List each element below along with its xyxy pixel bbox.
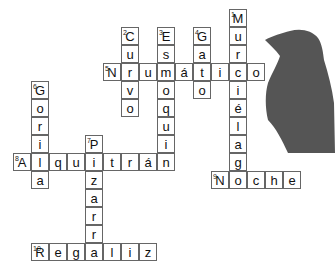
- crossword-cell[interactable]: a: [193, 45, 211, 63]
- cell-letter: s: [163, 47, 170, 62]
- crossword-cell[interactable]: 8A: [13, 153, 31, 171]
- crossword-cell[interactable]: o: [31, 99, 49, 117]
- cell-letter: r: [128, 65, 132, 80]
- cell-letter: u: [126, 47, 133, 62]
- crossword-cell[interactable]: á: [139, 153, 157, 171]
- cell-letter: o: [126, 101, 133, 116]
- crossword-cell[interactable]: u: [121, 45, 139, 63]
- cell-letter: i: [219, 65, 222, 80]
- crossword-cell[interactable]: o: [193, 81, 211, 99]
- cell-letter: z: [145, 245, 152, 260]
- crossword-cell[interactable]: u: [67, 153, 85, 171]
- crossword-cell[interactable]: 3E: [157, 27, 175, 45]
- cell-letter: a: [90, 245, 97, 260]
- crossword-cell[interactable]: r: [85, 225, 103, 243]
- crossword-cell[interactable]: n: [157, 153, 175, 171]
- crossword-cell[interactable]: q: [157, 99, 175, 117]
- cell-letter: m: [161, 65, 172, 80]
- cell-letter: i: [39, 137, 42, 152]
- clue-number: 10: [33, 240, 41, 258]
- cell-letter: u: [144, 65, 151, 80]
- cell-letter: g: [72, 245, 79, 260]
- cell-letter: a: [234, 137, 241, 152]
- cell-letter: á: [180, 65, 187, 80]
- cell-letter: o: [252, 65, 259, 80]
- cell-letter: c: [235, 65, 242, 80]
- cell-letter: c: [253, 173, 260, 188]
- crossword-cell[interactable]: i: [85, 153, 103, 171]
- cell-letter: v: [127, 83, 134, 98]
- crossword-cell[interactable]: 2C: [121, 27, 139, 45]
- cell-letter: r: [92, 209, 96, 224]
- crossword-cell[interactable]: g: [67, 243, 85, 261]
- crossword-cell[interactable]: l: [103, 243, 121, 261]
- cell-letter: u: [234, 29, 241, 44]
- crossword-cell[interactable]: i: [31, 135, 49, 153]
- crossword-cell[interactable]: 5N: [103, 63, 121, 81]
- cell-letter: g: [234, 155, 241, 170]
- crossword-cell[interactable]: e: [49, 243, 67, 261]
- crossword-cell[interactable]: c: [229, 63, 247, 81]
- cell-letter: u: [72, 155, 79, 170]
- crossword-cell[interactable]: é: [229, 99, 247, 117]
- cell-letter: e: [288, 173, 295, 188]
- crossword-cell[interactable]: a: [229, 135, 247, 153]
- cell-letter: é: [234, 101, 241, 116]
- crossword-cell[interactable]: g: [229, 153, 247, 171]
- clue-number: 3: [159, 24, 163, 42]
- crossword-cell[interactable]: i: [211, 63, 229, 81]
- crossword-cell[interactable]: q: [49, 153, 67, 171]
- cell-letter: q: [162, 101, 169, 116]
- crossword-cell[interactable]: r: [31, 117, 49, 135]
- crossword-cell[interactable]: z: [85, 171, 103, 189]
- cell-letter: r: [236, 47, 240, 62]
- crossword-cell[interactable]: i: [121, 243, 139, 261]
- crossword-cell[interactable]: u: [139, 63, 157, 81]
- crossword-cell[interactable]: a: [31, 171, 49, 189]
- cell-letter: i: [237, 83, 240, 98]
- crossword-cell[interactable]: h: [265, 171, 283, 189]
- cell-letter: a: [198, 47, 205, 62]
- crossword-cell[interactable]: u: [229, 27, 247, 45]
- crossword-cell[interactable]: c: [247, 171, 265, 189]
- crossword-cell[interactable]: l: [31, 153, 49, 171]
- crossword-cell[interactable]: 4G: [193, 27, 211, 45]
- cell-letter: l: [111, 245, 114, 260]
- crossword-cell[interactable]: r: [85, 207, 103, 225]
- crossword-cell[interactable]: o: [157, 81, 175, 99]
- crossword-cell[interactable]: v: [121, 81, 139, 99]
- crossword-cell[interactable]: t: [103, 153, 121, 171]
- clue-number: 6: [33, 78, 37, 96]
- crossword-cell[interactable]: r: [229, 45, 247, 63]
- crossword-cell[interactable]: 7P: [85, 135, 103, 153]
- crossword-cell[interactable]: a: [85, 243, 103, 261]
- crossword-cell[interactable]: á: [175, 63, 193, 81]
- crossword-cell[interactable]: l: [229, 117, 247, 135]
- crossword-cell[interactable]: 9N: [211, 171, 229, 189]
- crossword-cell[interactable]: m: [157, 63, 175, 81]
- crossword-cell[interactable]: o: [229, 171, 247, 189]
- cell-letter: o: [234, 173, 241, 188]
- clue-number: 5: [105, 60, 109, 78]
- crossword-cell[interactable]: 1M: [229, 9, 247, 27]
- cell-letter: i: [129, 245, 132, 260]
- cell-letter: a: [90, 191, 97, 206]
- crossword-cell[interactable]: o: [121, 99, 139, 117]
- crossword-cell[interactable]: 10R: [31, 243, 49, 261]
- clue-number: 8: [15, 150, 19, 168]
- crow-icon: [260, 28, 335, 153]
- crossword-cell[interactable]: r: [121, 153, 139, 171]
- crossword-cell[interactable]: a: [85, 189, 103, 207]
- cell-letter: l: [237, 119, 240, 134]
- crossword-cell[interactable]: u: [157, 117, 175, 135]
- cell-letter: i: [93, 155, 96, 170]
- crossword-cell[interactable]: s: [157, 45, 175, 63]
- crossword-cell[interactable]: i: [157, 135, 175, 153]
- crossword-cell[interactable]: e: [283, 171, 301, 189]
- crossword-cell[interactable]: i: [229, 81, 247, 99]
- cell-letter: l: [39, 155, 42, 170]
- crossword-cell[interactable]: 6G: [31, 81, 49, 99]
- crossword-cell[interactable]: z: [139, 243, 157, 261]
- crossword-cell[interactable]: r: [121, 63, 139, 81]
- crossword-cell[interactable]: t: [193, 63, 211, 81]
